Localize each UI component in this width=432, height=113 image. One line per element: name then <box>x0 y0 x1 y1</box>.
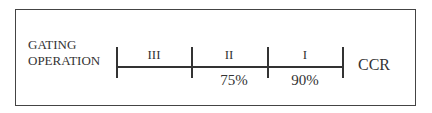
scale-tick-start <box>116 47 118 78</box>
threshold-90-label: 90% <box>280 72 330 89</box>
scale-axis-line <box>116 66 343 68</box>
gating-label-line1: GATING <box>28 37 100 53</box>
scale-tick-75 <box>191 47 193 78</box>
segment-label-i: I <box>285 47 325 63</box>
scale-tick-90 <box>267 47 269 78</box>
ccr-label: CCR <box>358 56 390 74</box>
segment-label-ii: II <box>209 47 249 63</box>
gating-operation-label: GATING OPERATION <box>28 37 100 69</box>
gating-label-line2: OPERATION <box>28 53 100 69</box>
scale-tick-end <box>342 47 344 78</box>
segment-label-iii: III <box>134 47 174 63</box>
threshold-75-label: 75% <box>209 72 259 89</box>
